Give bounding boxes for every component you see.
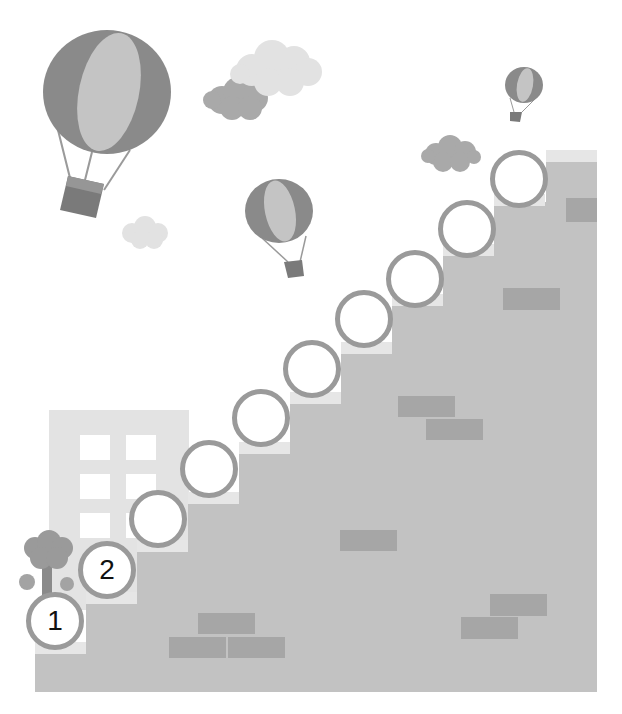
- brick: [169, 637, 226, 658]
- brick: [340, 530, 397, 551]
- step-ring-7[interactable]: [335, 290, 393, 348]
- brick: [490, 594, 547, 616]
- step-ring-3[interactable]: [129, 490, 187, 548]
- brick: [398, 396, 455, 417]
- brick: [566, 198, 597, 222]
- brick: [426, 419, 483, 440]
- step-ring-6[interactable]: [283, 340, 341, 398]
- brick: [228, 637, 285, 658]
- brick: [503, 288, 560, 310]
- step-ring-2[interactable]: 2: [78, 541, 136, 599]
- brick: [198, 613, 255, 634]
- step-ring-10[interactable]: [490, 150, 548, 208]
- step-ring-1[interactable]: 1: [26, 592, 84, 650]
- step-ring-9[interactable]: [438, 200, 496, 258]
- step-ring-4[interactable]: [180, 440, 238, 498]
- step-ring-5[interactable]: [232, 389, 290, 447]
- brick: [461, 617, 518, 639]
- worksheet-scene: 1 2: [0, 0, 622, 714]
- step-ring-8[interactable]: [386, 250, 444, 308]
